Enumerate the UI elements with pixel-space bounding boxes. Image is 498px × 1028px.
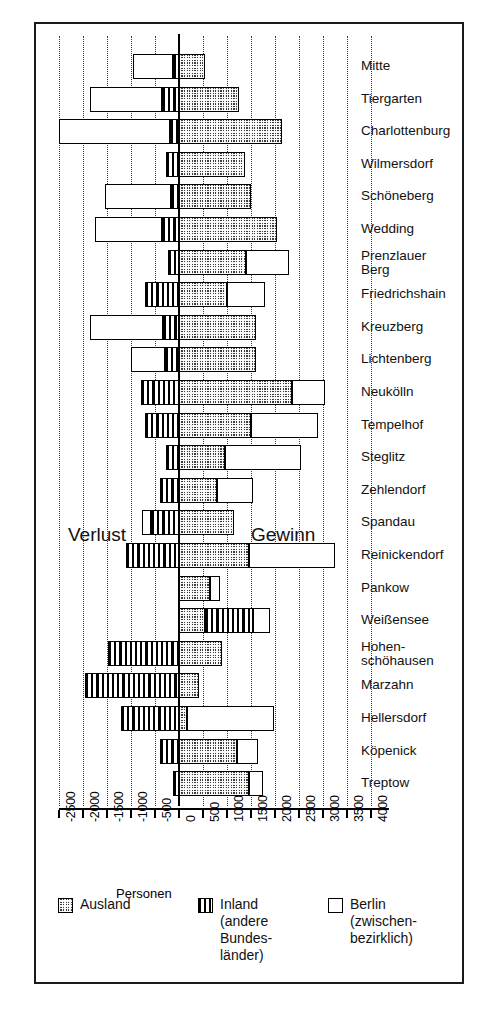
x-tick-label: -1000 bbox=[136, 792, 150, 822]
category-label: Marzahn bbox=[361, 678, 414, 692]
category-label: Treptow bbox=[361, 776, 409, 790]
bar-segment-ausland bbox=[179, 510, 234, 535]
x-tick bbox=[346, 810, 348, 818]
legend-label: Inland (andere Bundes- länder) bbox=[220, 896, 272, 964]
bar-segment-berlin bbox=[90, 315, 163, 340]
bar-segment-berlin bbox=[95, 217, 162, 242]
bar-segment-inland bbox=[145, 282, 179, 307]
bar-segment-ausland bbox=[179, 152, 245, 177]
legend-label: Berlin (zwischen- bezirklich) bbox=[350, 896, 417, 947]
bar-segment-berlin bbox=[131, 347, 165, 372]
bar-segment-inland bbox=[151, 510, 179, 535]
bar-segment-inland bbox=[163, 315, 179, 340]
bar-segment-inland bbox=[160, 739, 179, 764]
category-label: Spandau bbox=[361, 515, 415, 529]
bar-segment-ausland bbox=[179, 54, 205, 79]
x-tick bbox=[82, 810, 84, 818]
bar-segment-berlin bbox=[225, 445, 302, 470]
bar-segment-berlin bbox=[142, 510, 151, 535]
category-label: Pankow bbox=[361, 581, 409, 595]
bar-segment-ausland bbox=[179, 608, 205, 633]
category-label: Hellersdorf bbox=[361, 711, 426, 725]
bar-segment-inland bbox=[121, 706, 179, 731]
bar-segment-ausland bbox=[179, 576, 210, 601]
bar-segment-ausland bbox=[179, 315, 256, 340]
legend-swatch-white bbox=[328, 898, 343, 913]
category-label: Charlottenburg bbox=[361, 124, 450, 138]
x-tick bbox=[202, 810, 204, 818]
category-label: Mitte bbox=[361, 59, 390, 73]
bar-segment-ausland bbox=[179, 706, 187, 731]
bar-segment-berlin bbox=[249, 771, 263, 796]
x-tick bbox=[298, 810, 300, 818]
category-label: Tempelhof bbox=[361, 418, 423, 432]
category-label: Zehlendorf bbox=[361, 483, 426, 497]
x-tick-label: -2000 bbox=[88, 792, 102, 822]
bar-segment-inland bbox=[170, 119, 179, 144]
bar-segment-inland bbox=[141, 380, 179, 405]
x-tick-label: 4000 bbox=[376, 795, 390, 822]
bar-segment-berlin bbox=[217, 478, 253, 503]
category-label: Reinickendorf bbox=[361, 548, 444, 562]
bar-segment-ausland bbox=[179, 119, 282, 144]
bar-segment-berlin bbox=[105, 184, 171, 209]
bar-segment-inland bbox=[162, 87, 179, 112]
x-tick bbox=[322, 810, 324, 818]
bar-segment-inland bbox=[173, 54, 179, 79]
category-label: Lichtenberg bbox=[361, 352, 432, 366]
bar-segment-ausland bbox=[179, 217, 277, 242]
x-tick-label: -500 bbox=[160, 798, 174, 822]
bar-segment-inland bbox=[162, 217, 179, 242]
annotation-verlust: Verlust bbox=[68, 524, 126, 546]
category-label: Neukölln bbox=[361, 385, 414, 399]
bar-segment-inland bbox=[108, 641, 179, 666]
bar-segment-berlin bbox=[227, 282, 265, 307]
bar-segment-inland bbox=[166, 152, 179, 177]
bar-segment-ausland bbox=[179, 347, 256, 372]
bar-segment-inland bbox=[126, 543, 179, 568]
category-label: Steglitz bbox=[361, 450, 405, 464]
category-label: Wilmersdorf bbox=[361, 157, 433, 171]
category-label: Kreuzberg bbox=[361, 320, 423, 334]
bar-segment-ausland bbox=[179, 413, 251, 438]
bar-segment-inland bbox=[173, 771, 179, 796]
bar-segment-inland bbox=[166, 445, 179, 470]
bar-segment-ausland bbox=[179, 739, 237, 764]
chart-frame: -2500-2000-1500-1000-5000500100015002000… bbox=[34, 22, 464, 984]
bar-segment-inland bbox=[171, 184, 179, 209]
bar-segment-ausland bbox=[179, 87, 239, 112]
x-tick bbox=[274, 810, 276, 818]
bar-segment-berlin bbox=[59, 119, 170, 144]
x-tick-label: 2500 bbox=[304, 795, 318, 822]
x-tick-label: 1000 bbox=[232, 795, 246, 822]
annotation-gewinn: Gewinn bbox=[251, 524, 315, 546]
x-tick bbox=[130, 810, 132, 818]
bar-segment-ausland bbox=[179, 478, 217, 503]
bar-row bbox=[36, 54, 466, 79]
bar-segment-ausland bbox=[179, 445, 225, 470]
bar-segment-inland bbox=[160, 478, 179, 503]
bar-segment-ausland bbox=[179, 250, 246, 275]
category-label: Weißensee bbox=[361, 613, 429, 627]
category-label: Tiergarten bbox=[361, 92, 422, 106]
bar-segment-berlin bbox=[90, 87, 162, 112]
category-label: Köpenick bbox=[361, 744, 417, 758]
legend-label: Ausland bbox=[80, 896, 131, 913]
category-label: Friedrichshain bbox=[361, 287, 446, 301]
bar-segment-berlin bbox=[246, 250, 289, 275]
category-label: Hohen- schöhausen bbox=[361, 640, 434, 668]
bar-segment-berlin bbox=[187, 706, 273, 731]
x-tick bbox=[178, 810, 180, 818]
legend-swatch-checkerboard bbox=[58, 898, 73, 913]
bar-segment-berlin bbox=[237, 739, 259, 764]
x-tick bbox=[58, 810, 60, 818]
x-tick-label: 3000 bbox=[328, 795, 342, 822]
x-tick bbox=[370, 810, 372, 818]
x-tick-label: -1500 bbox=[112, 792, 126, 822]
x-tick-label: 1500 bbox=[256, 795, 270, 822]
x-tick-label: 0 bbox=[184, 815, 198, 822]
plot-area: -2500-2000-1500-1000-5000500100015002000… bbox=[36, 24, 466, 986]
bar-segment-ausland bbox=[179, 673, 199, 698]
x-tick-label: 3500 bbox=[352, 795, 366, 822]
x-tick bbox=[250, 810, 252, 818]
